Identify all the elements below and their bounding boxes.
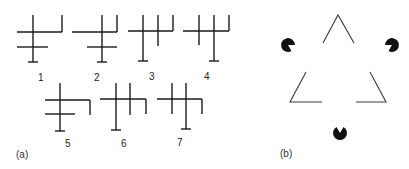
figure-1: 1: [17, 15, 62, 83]
figure-7: 7: [157, 83, 202, 148]
figure-2-label: 2: [94, 72, 100, 83]
panel-b: (b): [280, 15, 399, 159]
triangle-corner-bottom-left: [290, 72, 322, 102]
figure-4-label: 4: [204, 71, 210, 82]
panel-a-label: (a): [16, 149, 28, 160]
figure-5: 5: [45, 83, 90, 149]
pacman-inducer-bottom-icon: [333, 127, 347, 140]
panel-b-label: (b): [280, 148, 292, 159]
triangle-corner-top: [323, 15, 354, 43]
figure-4: 4: [183, 15, 229, 82]
pacman-inducer-right-icon: [385, 38, 399, 52]
figure-6-label: 6: [121, 138, 127, 149]
pacman-inducer-left-icon: [281, 38, 295, 52]
figure-2: 2: [72, 15, 117, 83]
figure-7-label: 7: [177, 137, 183, 148]
figure-5-label: 5: [65, 138, 71, 149]
figure-1-label: 1: [38, 72, 44, 83]
figure-canvas: 1 2 3 4: [0, 0, 409, 169]
figure-3: 3: [128, 15, 173, 82]
panel-a: 1 2 3 4: [16, 15, 229, 160]
figure-6: 6: [100, 83, 146, 149]
figure-3-label: 3: [149, 71, 155, 82]
triangle-corner-bottom-right: [356, 72, 386, 102]
